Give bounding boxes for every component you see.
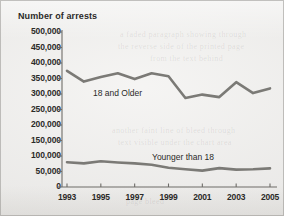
- series-label-adult: 18 and Older: [93, 88, 142, 98]
- chart-figure: a faded paragraph showing through the re…: [0, 0, 284, 216]
- series-label-juvenile: Younger than 18: [152, 152, 214, 162]
- series-line-juvenile: [67, 161, 270, 170]
- plot-area: [0, 0, 284, 216]
